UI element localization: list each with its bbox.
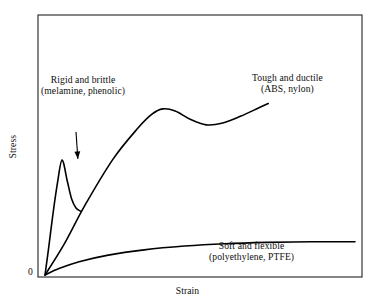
series-label-rigid-line1: Rigid and brittle — [41, 74, 125, 85]
origin-label: 0 — [28, 266, 33, 277]
series-label-tough-and-ductile: Tough and ductile (ABS, nylon) — [252, 72, 323, 95]
annotation-arrow-group — [74, 132, 80, 159]
series-label-soft-line1: Soft and flexible — [209, 240, 294, 251]
stress-strain-chart-figure: Rigid and brittle (melamine, phenolic) T… — [0, 0, 375, 305]
series-label-rigid-line2: (melamine, phenolic) — [41, 85, 125, 96]
series-label-rigid-and-brittle: Rigid and brittle (melamine, phenolic) — [41, 74, 125, 97]
curve-soft-and-flexible — [45, 242, 355, 275]
series-label-soft-line2: (polyethylene, PTFE) — [209, 251, 294, 262]
curve-rigid-and-brittle — [45, 160, 80, 275]
y-axis-title: Stress — [7, 117, 18, 177]
chart-canvas — [0, 0, 375, 305]
series-label-soft-and-flexible: Soft and flexible (polyethylene, PTFE) — [209, 240, 294, 263]
plot-frame — [38, 15, 362, 277]
x-axis-title: Strain — [0, 285, 375, 296]
series-label-tough-line2: (ABS, nylon) — [252, 83, 323, 94]
arrow-head-icon — [74, 151, 80, 159]
series-label-tough-line1: Tough and ductile — [252, 72, 323, 83]
